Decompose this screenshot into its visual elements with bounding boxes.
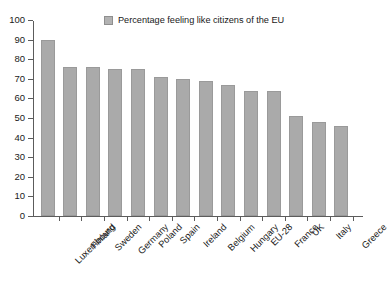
x-axis-tick xyxy=(353,217,354,221)
x-axis-tick xyxy=(307,217,308,221)
bar xyxy=(63,67,77,216)
y-axis-tick: 100 xyxy=(28,20,33,21)
y-axis-tick: 40 xyxy=(28,138,33,139)
y-axis-tick-label: 80 xyxy=(14,53,25,64)
x-axis-tick xyxy=(285,217,286,221)
x-axis-tick xyxy=(194,217,195,221)
y-axis-tick-label: 30 xyxy=(14,151,25,162)
y-axis-tick-label: 40 xyxy=(14,132,25,143)
bar xyxy=(289,116,303,216)
y-axis-tick: 60 xyxy=(28,98,33,99)
y-axis-tick: 90 xyxy=(28,40,33,41)
bar xyxy=(267,91,281,216)
y-axis-tick: 70 xyxy=(28,79,33,80)
y-axis-tick: 30 xyxy=(28,157,33,158)
x-axis-tick xyxy=(127,217,128,221)
y-axis-tick: 50 xyxy=(28,118,33,119)
y-axis-tick: 20 xyxy=(28,177,33,178)
bar xyxy=(41,40,55,216)
bar xyxy=(199,81,213,216)
y-axis-tick-label: 90 xyxy=(14,34,25,45)
y-axis-line xyxy=(33,21,34,217)
bar xyxy=(312,122,326,216)
bar xyxy=(108,69,122,216)
bar xyxy=(221,85,235,216)
bar xyxy=(86,67,100,216)
bar xyxy=(176,79,190,216)
bar xyxy=(334,126,348,216)
x-axis-category-label: Greece xyxy=(360,222,389,251)
y-axis-tick-label: 50 xyxy=(14,112,25,123)
y-axis-tick: 0 xyxy=(28,216,33,217)
x-axis-tick xyxy=(149,217,150,221)
x-axis-category-label: Italy xyxy=(334,222,353,241)
y-axis-tick-label: 10 xyxy=(14,190,25,201)
y-axis-tick-label: 70 xyxy=(14,73,25,84)
y-axis-tick-label: 0 xyxy=(20,210,25,221)
y-axis-tick: 80 xyxy=(28,59,33,60)
y-axis-tick-label: 100 xyxy=(9,14,25,25)
x-axis-tick xyxy=(81,217,82,221)
x-axis-tick xyxy=(330,217,331,221)
x-axis-tick xyxy=(172,217,173,221)
plot-area: 1009080706050403020100 xyxy=(33,21,363,217)
y-axis-tick: 10 xyxy=(28,196,33,197)
y-axis-tick-label: 60 xyxy=(14,92,25,103)
x-axis-line xyxy=(33,216,363,217)
bar xyxy=(131,69,145,216)
x-axis-tick xyxy=(59,217,60,221)
x-axis-tick xyxy=(217,217,218,221)
x-axis-tick xyxy=(240,217,241,221)
y-axis-tick-label: 20 xyxy=(14,171,25,182)
bar xyxy=(244,91,258,216)
x-axis-tick xyxy=(262,217,263,221)
bar xyxy=(154,77,168,216)
x-axis-tick xyxy=(104,217,105,221)
